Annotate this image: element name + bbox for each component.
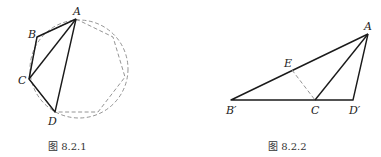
- label-a: A: [363, 20, 372, 33]
- triangle-ab-d: [231, 34, 368, 100]
- figure-8-2-2: A B′ C D′ E 图 8.2.2: [225, 20, 372, 152]
- label-d-prime: D′: [348, 104, 361, 117]
- label-b-prime: B′: [225, 104, 237, 117]
- label-c: C: [311, 104, 320, 117]
- label-b: B: [27, 28, 36, 41]
- figure-canvas: A B C D 图 8.2.1 A B′ C D′ E 图 8.2.2: [0, 0, 381, 157]
- caption-fig-8-2-1: 图 8.2.1: [48, 141, 87, 152]
- figure-8-2-1: A B C D 图 8.2.1: [18, 5, 128, 152]
- label-a: A: [72, 5, 81, 18]
- label-c: C: [18, 74, 27, 87]
- caption-fig-8-2-2: 图 8.2.2: [268, 141, 307, 152]
- label-d: D: [47, 115, 57, 128]
- circumscribed-circle: [30, 20, 128, 118]
- label-e: E: [283, 57, 292, 70]
- segment-ec: [292, 70, 315, 100]
